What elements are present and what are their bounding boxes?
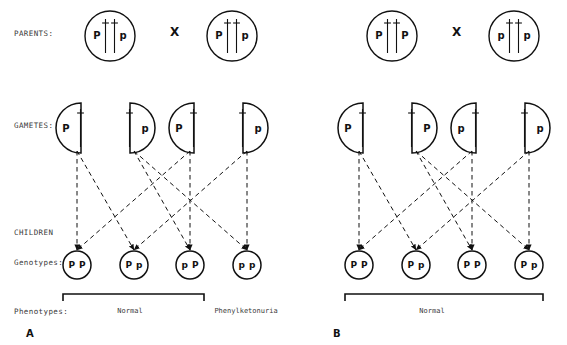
phenotype-bracket — [345, 294, 543, 301]
allele-label: p — [136, 260, 143, 270]
gamete-cell: P — [56, 103, 84, 153]
chromosome — [472, 109, 479, 147]
phenotype-bracket — [63, 294, 204, 301]
chromosome — [521, 109, 528, 147]
gametes-row-graphics: PpPpPPpp — [56, 103, 550, 153]
allele-label: P — [423, 123, 430, 134]
child-genotype-cell: PP — [63, 251, 91, 279]
allele-label: P — [344, 123, 351, 134]
allele-label: P — [68, 260, 75, 270]
allele-label: p — [254, 123, 261, 134]
chromosome — [111, 19, 118, 53]
children-row-graphics: PPPppPppPPPpPPPp — [63, 251, 543, 279]
child-genotype-cell: Pp — [120, 251, 148, 279]
allele-label: p — [239, 260, 246, 270]
gamete-cell: P — [169, 103, 197, 153]
child-genotype-cell: pp — [233, 251, 261, 279]
allele-label: P — [474, 260, 481, 270]
gamete-cell: P — [338, 103, 366, 153]
allele-label: P — [79, 260, 86, 270]
allele-label: P — [175, 123, 182, 134]
gamete-to-child-connector — [416, 151, 472, 250]
child-genotype-cell: PP — [345, 251, 373, 279]
gamete-cell: P — [408, 103, 437, 153]
allele-label: p — [536, 123, 543, 134]
chromosome — [102, 19, 109, 53]
allele-label: P — [375, 30, 382, 41]
chromosome — [77, 109, 84, 147]
connector-lines — [77, 151, 529, 250]
child-genotype-cell: Pp — [402, 251, 430, 279]
chromosome — [239, 109, 246, 147]
genetics-inheritance-figure: PARENTS: GAMETES: CHILDREN Genotypes: Ph… — [0, 0, 567, 345]
allele-label: P — [62, 123, 69, 134]
parent-cell: PP — [367, 11, 417, 61]
allele-label: P — [361, 260, 368, 270]
allele-label: p — [497, 30, 504, 41]
parent-cell: Pp — [85, 11, 135, 61]
allele-label: p — [249, 260, 256, 270]
chromosome — [233, 19, 240, 53]
gamete-to-child-connector — [77, 151, 134, 250]
parent-cell: pp — [489, 11, 539, 61]
gamete-to-child-connector — [359, 151, 416, 250]
chromosome — [506, 19, 513, 53]
allele-label: p — [141, 123, 148, 134]
gamete-cell: p — [521, 103, 550, 153]
chromosome — [190, 109, 197, 147]
allele-label: p — [241, 30, 248, 41]
parents-row-graphics: PpPpPPpp — [85, 11, 539, 61]
chromosome — [224, 19, 231, 53]
gamete-to-child-connector — [77, 151, 190, 250]
child-genotype-cell: pP — [176, 251, 204, 279]
allele-label: P — [407, 260, 414, 270]
phenotype-brackets — [63, 294, 543, 301]
allele-label: p — [457, 123, 464, 134]
gamete-to-child-connector — [359, 151, 472, 250]
gamete-cell: p — [239, 103, 268, 153]
chromosome — [515, 19, 522, 53]
allele-label: P — [192, 260, 199, 270]
chromosome — [408, 109, 415, 147]
allele-label: p — [418, 260, 425, 270]
parent-cell: Pp — [207, 11, 257, 61]
chromosome — [359, 109, 366, 147]
chromosome — [126, 109, 133, 147]
allele-label: P — [520, 260, 527, 270]
gamete-cell: p — [451, 103, 479, 153]
allele-label: p — [523, 30, 530, 41]
gamete-cell: p — [126, 103, 155, 153]
chromosome — [384, 19, 391, 53]
diagram-drawing-layer: PpPpPPpp PpPpPPpp PPPppPppPPPpPPPp — [0, 0, 567, 345]
gamete-to-child-connector — [134, 151, 190, 250]
allele-label: P — [463, 260, 470, 270]
child-genotype-cell: PP — [458, 251, 486, 279]
allele-label: P — [350, 260, 357, 270]
allele-label: P — [215, 30, 222, 41]
allele-label: P — [125, 260, 132, 270]
child-genotype-cell: Pp — [515, 251, 543, 279]
allele-label: p — [119, 30, 126, 41]
allele-label: p — [182, 260, 189, 270]
allele-label: p — [531, 260, 538, 270]
chromosome — [393, 19, 400, 53]
allele-label: P — [401, 30, 408, 41]
allele-label: P — [93, 30, 100, 41]
